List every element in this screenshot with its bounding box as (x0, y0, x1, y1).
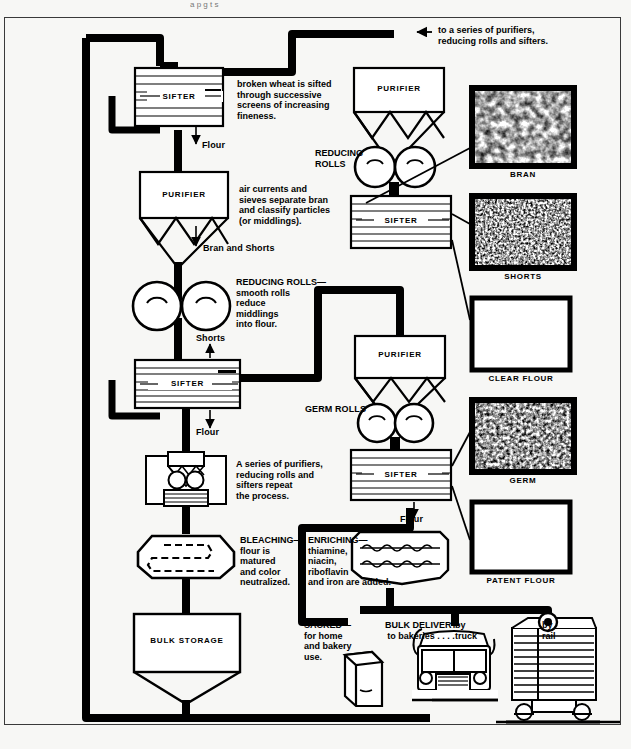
label-germ-rolls: GERM ROLLS (305, 404, 366, 414)
caption-sifted: broken wheat is sifted through successiv… (237, 79, 347, 121)
label-sifter-4: SIFTER (351, 470, 451, 479)
swatch-patent-flour (472, 502, 570, 572)
caption-bleaching: BLEACHING— flour is matured and color ne… (240, 535, 312, 588)
caption-reducing-rolls: REDUCING ROLLS— smooth rolls reduce midd… (236, 277, 344, 330)
swatch-clear-flour (472, 298, 570, 370)
label-bulk-storage: BULK STORAGE (134, 636, 240, 645)
caption-to-series: to a series of purifiers, reducing rolls… (438, 25, 588, 46)
label-flour-3: Flour (400, 514, 423, 524)
mini-repeat-unit (146, 452, 226, 506)
caption-by-rail: by rail (542, 620, 572, 641)
swatch-label-bran: BRAN (472, 170, 574, 179)
swatch-label-clear-flour: CLEAR FLOUR (470, 374, 572, 383)
bleaching-unit (138, 536, 234, 578)
caption-series-repeat: A series of purifiers, reducing rolls an… (236, 459, 356, 501)
swatch-germ (472, 400, 574, 472)
label-reducing-rolls-right: REDUCING ROLLS (315, 148, 363, 169)
caption-bulk-delivery: BULK DELIVERY to bakeries . . . . (376, 620, 466, 641)
label-shorts: Shorts (196, 333, 225, 343)
label-purifier-left: PURIFIER (140, 190, 228, 199)
caption-sacked: SACKED— for home and bakery use. (304, 620, 360, 662)
caption-by-truck: by truck (455, 620, 485, 641)
label-purifier-top-right: PURIFIER (354, 84, 444, 93)
caption-purifier: air currents and sieves separate bran an… (239, 184, 351, 226)
label-purifier-mid-right: PURIFIER (355, 350, 445, 359)
duct-germrolls-to-sifter4 (390, 437, 400, 450)
swatch-label-patent-flour: PATENT FLOUR (470, 576, 572, 585)
label-sifter-3: SIFTER (135, 379, 240, 388)
duct-enrich-down (360, 588, 390, 610)
reducing-rolls-right (355, 147, 435, 187)
label-flour-1: Flour (202, 140, 225, 150)
swatch-bran (472, 88, 574, 166)
swatch-shorts (472, 196, 574, 268)
caption-enriching: ENRICHING— thiamine, niacin, riboflavin … (308, 535, 398, 588)
label-sifter-1: SIFTER (135, 92, 223, 101)
label-flour-2: Flour (196, 427, 219, 437)
bulk-storage (134, 614, 240, 704)
flour-milling-diagram: a p g t s (0, 0, 631, 749)
duct-sifter1-to-right (222, 34, 394, 72)
swatch-label-shorts: SHORTS (472, 272, 574, 281)
label-sifter-2: SIFTER (351, 216, 451, 225)
purifier-left (140, 172, 228, 268)
swatch-label-germ: GERM (472, 476, 574, 485)
duct-top-left (86, 38, 160, 66)
germ-rolls (358, 404, 433, 442)
label-bran-and-shorts: Bran and Shorts (203, 243, 275, 253)
